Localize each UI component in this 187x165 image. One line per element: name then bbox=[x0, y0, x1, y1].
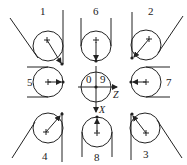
label-9: 9 bbox=[100, 73, 106, 85]
cell-2: 2 bbox=[130, 5, 183, 60]
label-4: 4 bbox=[42, 150, 48, 162]
label-8: 8 bbox=[94, 151, 100, 163]
cell-8: 8 bbox=[82, 115, 112, 163]
label-7: 7 bbox=[166, 76, 172, 88]
label-3: 3 bbox=[143, 148, 149, 160]
label-6: 6 bbox=[93, 5, 99, 17]
cell-center-axes: 0 9 Z X bbox=[78, 66, 119, 115]
cell-7: 7 bbox=[129, 67, 172, 97]
axis-z-label: Z bbox=[113, 89, 119, 100]
label-0: 0 bbox=[86, 73, 92, 85]
label-1: 1 bbox=[40, 5, 46, 17]
cell-6: 6 bbox=[81, 5, 111, 63]
cell-4: 4 bbox=[12, 112, 64, 162]
label-5: 5 bbox=[27, 76, 33, 88]
roller-diagram: 1 6 2 5 0 9 Z X bbox=[0, 0, 187, 165]
cell-1: 1 bbox=[10, 5, 64, 66]
label-2: 2 bbox=[148, 5, 154, 17]
cell-3: 3 bbox=[130, 112, 182, 160]
cell-5: 5 bbox=[27, 67, 65, 97]
axis-x-label: X bbox=[98, 104, 106, 115]
